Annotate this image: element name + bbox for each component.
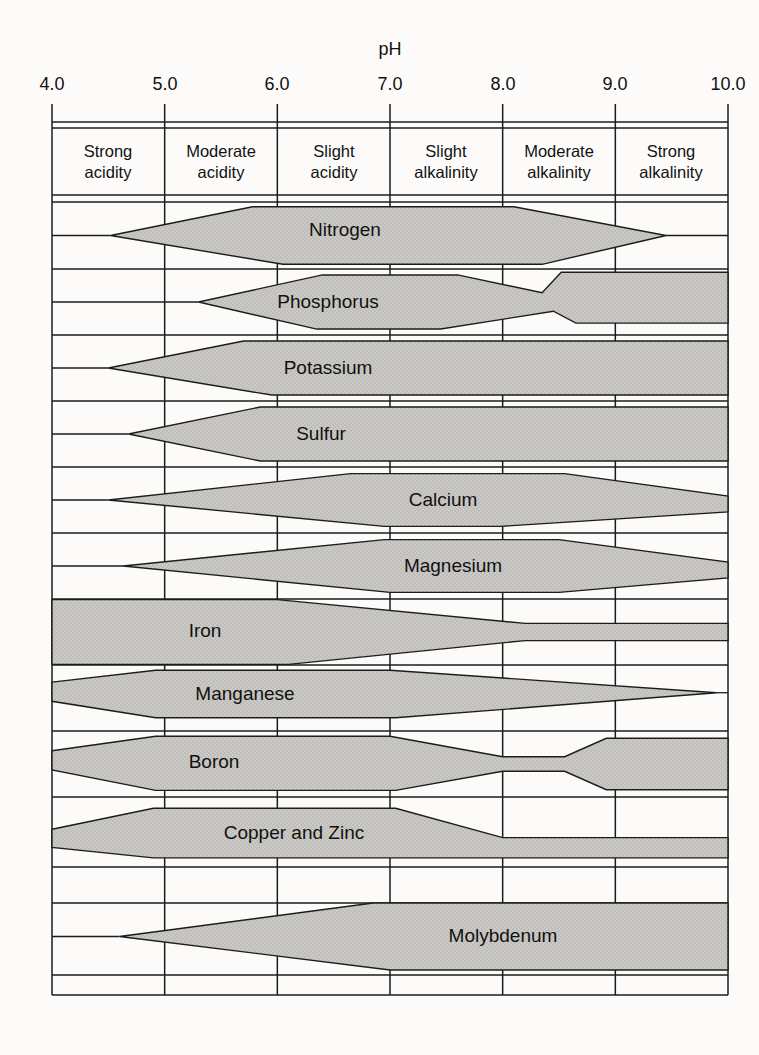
zone-label-line: Moderate bbox=[186, 141, 256, 162]
zone-label-line: Slight bbox=[414, 141, 477, 162]
zone-label-line: Slight bbox=[311, 141, 358, 162]
axis-tick-label: 9.0 bbox=[602, 74, 627, 95]
zone-label-line: alkalinity bbox=[524, 162, 594, 183]
band-shape-copper-and-zinc bbox=[52, 808, 728, 858]
zone-label-slight-alkalinity: Slight alkalinity bbox=[414, 141, 477, 183]
band-shape-nitrogen bbox=[111, 207, 666, 265]
zone-label-line: alkalinity bbox=[414, 162, 477, 183]
band-label-calcium: Calcium bbox=[409, 489, 478, 511]
band-shape-molybdenum bbox=[120, 903, 728, 970]
zone-label-strong-alkalinity: Strong alkalinity bbox=[639, 141, 702, 183]
band-label-iron: Iron bbox=[189, 620, 222, 642]
band-shape-manganese bbox=[52, 670, 717, 718]
zone-label-line: Moderate bbox=[524, 141, 594, 162]
axis-tick-label: 6.0 bbox=[264, 74, 289, 95]
band-label-potassium: Potassium bbox=[284, 357, 373, 379]
zone-label-line: acidity bbox=[84, 162, 133, 183]
zone-label-line: Strong bbox=[639, 141, 702, 162]
axis-tick-label: 5.0 bbox=[152, 74, 177, 95]
axis-tick-label: 7.0 bbox=[377, 74, 402, 95]
band-label-magnesium: Magnesium bbox=[404, 555, 502, 577]
nutrient-bands bbox=[52, 207, 728, 970]
zone-label-slight-acidity: Slight acidity bbox=[311, 141, 358, 183]
zone-label-line: acidity bbox=[186, 162, 256, 183]
zone-label-moderate-acidity: Moderate acidity bbox=[186, 141, 256, 183]
band-label-molybdenum: Molybdenum bbox=[449, 925, 558, 947]
zone-label-strong-acidity: Strong acidity bbox=[84, 141, 133, 183]
band-label-nitrogen: Nitrogen bbox=[309, 219, 381, 241]
band-shape-boron bbox=[52, 736, 728, 790]
axis-tick-label: 4.0 bbox=[39, 74, 64, 95]
band-shape-sulfur bbox=[129, 407, 728, 461]
zone-label-line: alkalinity bbox=[639, 162, 702, 183]
band-shape-potassium bbox=[108, 341, 728, 395]
soil-ph-nutrient-availability-chart: pH 4.0 5.0 6.0 7.0 8.0 9.0 10.0 Strong a… bbox=[0, 0, 759, 1055]
band-label-boron: Boron bbox=[189, 751, 240, 773]
zone-label-line: Strong bbox=[84, 141, 133, 162]
zone-label-line: acidity bbox=[311, 162, 358, 183]
band-label-sulfur: Sulfur bbox=[296, 423, 346, 445]
axis-tick-label: 8.0 bbox=[490, 74, 515, 95]
axis-title: pH bbox=[378, 39, 401, 60]
axis-tick-label: 10.0 bbox=[710, 74, 745, 95]
band-label-phosphorus: Phosphorus bbox=[277, 291, 378, 313]
band-label-copper-and-zinc: Copper and Zinc bbox=[224, 822, 364, 844]
zone-label-moderate-alkalinity: Moderate alkalinity bbox=[524, 141, 594, 183]
band-label-manganese: Manganese bbox=[195, 683, 294, 705]
